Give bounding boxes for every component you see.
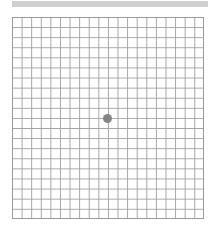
- top-bar: [12, 1, 208, 7]
- grid-title: Amsler grid: [13, 18, 14, 19]
- fixation-dot-icon: [103, 114, 112, 123]
